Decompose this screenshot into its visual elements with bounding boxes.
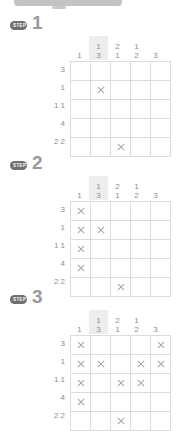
grid-cell-4-3-empty[interactable] <box>111 119 131 138</box>
grid-table <box>70 335 171 431</box>
row-clues: 311 142 2 <box>0 61 70 151</box>
grid-cell-2-1-crossed[interactable] <box>71 221 91 240</box>
grid-cell-1-4-filled[interactable] <box>131 336 151 355</box>
grid-cell-2-3-filled[interactable] <box>111 355 131 374</box>
grid-cell-5-1-filled[interactable] <box>71 412 91 431</box>
row-clue-1: 3 <box>0 61 70 79</box>
grid-cell-1-2-filled[interactable] <box>91 202 111 221</box>
top-decoration-tab <box>52 6 66 9</box>
grid-cell-2-2-crossed[interactable] <box>91 221 111 240</box>
grid-cell-3-1-crossed[interactable] <box>71 240 91 259</box>
grid-cell-2-5-empty[interactable] <box>151 221 171 240</box>
row-clue-3: 1 1 <box>0 97 70 115</box>
grid-cell-4-1-crossed[interactable] <box>71 393 91 412</box>
grid-cell-2-5-empty[interactable] <box>151 81 171 100</box>
grid-cell-3-5-filled[interactable] <box>151 374 171 393</box>
grid-cell-2-5-crossed[interactable] <box>151 355 171 374</box>
row-clue-4: 4 <box>0 255 70 273</box>
grid-cell-3-4-empty[interactable] <box>131 100 151 119</box>
grid-cell-5-2-filled[interactable] <box>91 412 111 431</box>
column-clue-5: 3 <box>146 176 165 200</box>
column-clue-1: 1 <box>70 310 89 334</box>
grid-cell-4-4-filled[interactable] <box>131 393 151 412</box>
grid-cell-1-2-filled[interactable] <box>91 62 111 81</box>
grid-cell-4-2-filled[interactable] <box>91 119 111 138</box>
step-number: 3 <box>32 286 43 308</box>
grid-row <box>71 374 171 393</box>
grid-cell-4-3-filled[interactable] <box>111 393 131 412</box>
column-clue-top: 1 <box>96 182 100 191</box>
grid-cell-3-2-filled[interactable] <box>91 240 111 259</box>
grid-cell-2-4-empty[interactable] <box>131 81 151 100</box>
grid-cell-2-3-empty[interactable] <box>111 221 131 240</box>
grid-cell-3-4-crossed[interactable] <box>131 374 151 393</box>
grid-cell-3-4-empty[interactable] <box>131 240 151 259</box>
grid-cell-1-1-empty[interactable] <box>71 62 91 81</box>
grid-cell-5-3-crossed[interactable] <box>111 412 131 431</box>
step-badge: STEP <box>10 21 27 30</box>
grid-cell-1-3-empty[interactable] <box>111 202 131 221</box>
nonogram-grid <box>70 201 171 297</box>
grid-cell-4-2-filled[interactable] <box>91 259 111 278</box>
grid-cell-2-4-crossed[interactable] <box>131 355 151 374</box>
step-header: STEP2 <box>10 154 181 176</box>
top-decoration-bar <box>14 0 122 6</box>
column-clue-4: 12 <box>127 176 146 200</box>
grid-cell-2-1-empty[interactable] <box>71 81 91 100</box>
grid-cell-2-3-empty[interactable] <box>111 81 131 100</box>
grid-cell-5-4-filled[interactable] <box>131 412 151 431</box>
grid-cell-1-2-filled[interactable] <box>91 336 111 355</box>
column-clue-bottom: 1 <box>115 51 119 60</box>
grid-cell-2-2-crossed[interactable] <box>91 81 111 100</box>
grid-cell-1-3-filled[interactable] <box>111 336 131 355</box>
column-clue-bottom: 3 <box>153 51 157 60</box>
column-clue-top: 1 <box>134 182 138 191</box>
grid-cell-3-5-empty[interactable] <box>151 100 171 119</box>
column-clue-bottom: 3 <box>96 51 100 60</box>
grid-cell-5-5-filled[interactable] <box>151 412 171 431</box>
grid-cell-3-3-crossed[interactable] <box>111 374 131 393</box>
grid-cell-1-5-crossed[interactable] <box>151 336 171 355</box>
grid-cell-2-2-crossed[interactable] <box>91 355 111 374</box>
column-clue-1: 1 <box>70 176 89 200</box>
grid-cell-1-1-crossed[interactable] <box>71 202 91 221</box>
grid-cell-4-3-empty[interactable] <box>111 259 131 278</box>
grid-cell-3-1-crossed[interactable] <box>71 374 91 393</box>
grid-cell-3-2-filled[interactable] <box>91 100 111 119</box>
grid-cell-3-3-empty[interactable] <box>111 240 131 259</box>
grid-cell-2-1-crossed[interactable] <box>71 355 91 374</box>
grid-cell-4-5-empty[interactable] <box>151 119 171 138</box>
grid-row <box>71 100 171 119</box>
grid-cell-4-4-empty[interactable] <box>131 259 151 278</box>
grid-cell-3-5-empty[interactable] <box>151 240 171 259</box>
grid-cell-4-2-filled[interactable] <box>91 393 111 412</box>
grid-cell-3-1-empty[interactable] <box>71 100 91 119</box>
column-clues: 1132112 3 <box>70 36 165 60</box>
row-clue-1: 3 <box>0 201 70 219</box>
grid-cell-1-4-empty[interactable] <box>131 202 151 221</box>
grid-cell-2-4-empty[interactable] <box>131 221 151 240</box>
column-clue-1: 1 <box>70 36 89 60</box>
row-clue-1: 3 <box>0 335 70 353</box>
grid-row <box>71 240 171 259</box>
grid-cell-1-4-empty[interactable] <box>131 62 151 81</box>
grid-cell-1-1-crossed[interactable] <box>71 336 91 355</box>
grid-cell-4-1-crossed[interactable] <box>71 259 91 278</box>
column-clue-5: 3 <box>146 36 165 60</box>
step-header: STEP3 <box>10 288 181 310</box>
column-clue-top <box>154 316 156 325</box>
grid-cell-4-1-empty[interactable] <box>71 119 91 138</box>
grid-cell-1-5-empty[interactable] <box>151 202 171 221</box>
grid-cell-4-5-filled[interactable] <box>151 393 171 412</box>
column-clue-bottom: 3 <box>96 191 100 200</box>
nonogram-grid <box>70 61 171 157</box>
grid-cell-4-5-empty[interactable] <box>151 259 171 278</box>
column-clue-top <box>154 182 156 191</box>
grid-cell-1-5-empty[interactable] <box>151 62 171 81</box>
grid-cell-1-3-empty[interactable] <box>111 62 131 81</box>
grid-cell-3-2-filled[interactable] <box>91 374 111 393</box>
row-clue-2: 1 <box>0 353 70 371</box>
column-clue-3: 21 <box>108 310 127 334</box>
grid-cell-4-4-empty[interactable] <box>131 119 151 138</box>
grid-cell-3-3-empty[interactable] <box>111 100 131 119</box>
